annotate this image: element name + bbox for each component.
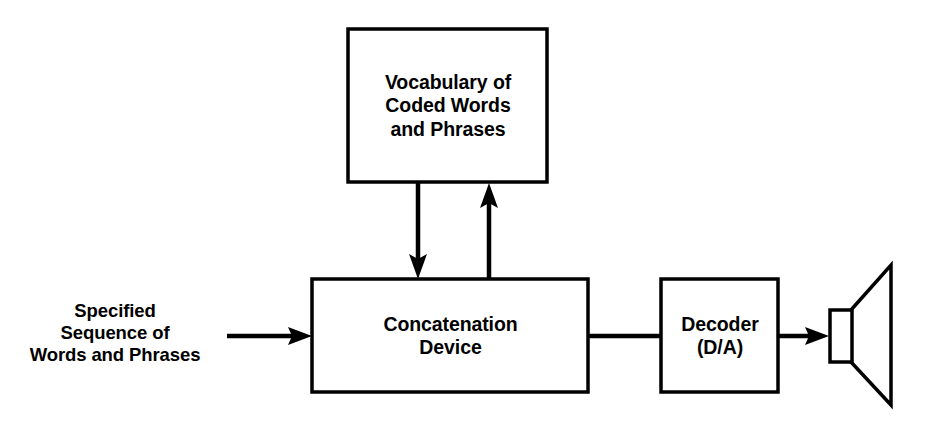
vocabulary-box-label: Vocabulary of Coded Words and Phrases [348,29,548,183]
vocabulary-to-concatenation-arrow [409,182,427,279]
decoder-to-speaker-arrow [778,327,829,345]
diagram-canvas: Vocabulary of Coded Words and Phrases Co… [0,0,932,426]
loudspeaker-icon [830,265,891,405]
concatenation-to-vocabulary-arrow [480,183,498,279]
decoder-box-label: Decoder (D/A) [661,279,779,393]
input-sequence-label: Specified Sequence of Words and Phrases [10,300,220,367]
concatenation-box-label: Concatenation Device [312,279,589,393]
input-to-concatenation-arrow [227,327,312,345]
